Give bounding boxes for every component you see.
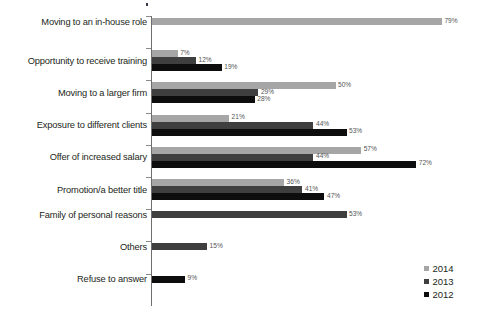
category-label: Others — [2, 242, 147, 252]
bar-2012 — [152, 276, 185, 283]
axis-tick — [146, 48, 151, 49]
category-label: Refuse to answer — [2, 274, 147, 284]
bar-2013 — [152, 89, 258, 96]
bar-2012 — [152, 161, 416, 168]
bar-value-label: 53% — [347, 210, 363, 218]
scan-artifact — [146, 3, 148, 6]
bar-value-label: 19% — [222, 63, 238, 71]
bar-2014 — [152, 18, 442, 25]
legend-item-2013[interactable]: 2013 — [424, 275, 454, 288]
axis-tick — [146, 145, 151, 146]
bar-value-label: 15% — [207, 242, 223, 250]
bar-value-label: 7% — [178, 49, 190, 57]
bar-value-label: 79% — [442, 17, 458, 25]
bar-value-label: 41% — [302, 185, 318, 193]
bar-2014 — [152, 50, 178, 57]
axis-tick — [146, 80, 151, 81]
bar-row: 12% — [152, 57, 477, 64]
bar-chart: Moving to an in-house role79%Opportunity… — [0, 0, 477, 325]
bar-row: 53% — [152, 129, 477, 136]
bar-2014 — [152, 179, 284, 186]
bar-row: 50% — [152, 82, 477, 89]
bar-2012 — [152, 193, 324, 200]
bar-value-label: 53% — [347, 127, 363, 135]
bar-row: 15% — [152, 243, 477, 250]
plot-area: Moving to an in-house role79%Opportunity… — [0, 0, 477, 325]
bar-2013 — [152, 57, 196, 64]
axis-tick — [146, 177, 151, 178]
bar-row: 53% — [152, 211, 477, 218]
legend-label: 2013 — [433, 275, 454, 288]
bar-2014 — [152, 82, 336, 89]
category-label: Offer of increased salary — [2, 152, 147, 162]
chart-legend: 201420132012 — [424, 262, 454, 301]
bar-row: 44% — [152, 122, 477, 129]
category-label: Promotion/a better title — [2, 185, 147, 195]
legend-label: 2014 — [433, 262, 454, 275]
bar-row: 72% — [152, 161, 477, 168]
bar-row: 41% — [152, 186, 477, 193]
category-label: Family of personal reasons — [2, 210, 147, 220]
category-label: Moving to a larger firm — [2, 88, 147, 98]
category-label: Opportunity to receive training — [2, 56, 147, 66]
bar-2013 — [152, 243, 207, 250]
category-label: Moving to an in-house role — [2, 17, 147, 27]
bar-row: 28% — [152, 96, 477, 103]
legend-item-2012[interactable]: 2012 — [424, 288, 454, 301]
legend-swatch-icon — [424, 266, 429, 271]
bar-row: 19% — [152, 64, 477, 71]
axis-tick — [146, 113, 151, 114]
bar-2012 — [152, 96, 255, 103]
bar-value-label: 12% — [196, 56, 212, 64]
bar-value-label: 47% — [324, 192, 340, 200]
category-label: Exposure to different clients — [2, 120, 147, 130]
bar-value-label: 21% — [229, 113, 245, 121]
bar-value-label: 28% — [255, 95, 271, 103]
bar-2012 — [152, 64, 222, 71]
bar-value-label: 50% — [336, 81, 352, 89]
legend-label: 2012 — [433, 288, 454, 301]
bar-value-label: 44% — [313, 152, 329, 160]
legend-swatch-icon — [424, 279, 429, 284]
bar-2013 — [152, 211, 347, 218]
bar-value-label: 9% — [185, 274, 197, 282]
bar-row: 29% — [152, 89, 477, 96]
bar-2012 — [152, 129, 347, 136]
bar-value-label: 57% — [361, 145, 377, 153]
bar-2014 — [152, 115, 229, 122]
bar-2013 — [152, 154, 313, 161]
bar-2013 — [152, 186, 302, 193]
bar-2014 — [152, 147, 361, 154]
legend-swatch-icon — [424, 292, 429, 297]
bar-row: 47% — [152, 193, 477, 200]
bar-value-label: 44% — [313, 120, 329, 128]
bar-value-label: 72% — [416, 159, 432, 167]
bar-value-label: 36% — [284, 178, 300, 186]
bar-2013 — [152, 122, 313, 129]
legend-item-2014[interactable]: 2014 — [424, 262, 454, 275]
bar-row: 79% — [152, 18, 477, 25]
